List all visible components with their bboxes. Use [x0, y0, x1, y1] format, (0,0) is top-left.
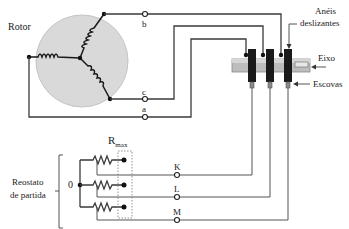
terminal-M-label: M	[173, 207, 181, 217]
rotor	[27, 12, 128, 107]
rmax-label: Rmax	[108, 134, 128, 149]
terminal-c-label: c	[142, 87, 146, 97]
rheostat-label-1: Reostato	[12, 177, 44, 187]
lead-L	[179, 88, 270, 197]
terminal-M	[175, 218, 180, 223]
terminal-b-label: b	[142, 19, 147, 29]
terminal-b	[143, 12, 148, 17]
slip-ring-3	[284, 49, 292, 82]
slip-rings	[244, 49, 292, 82]
slip-rings-label-1: Anéis	[315, 6, 336, 16]
slip-ring-1	[248, 49, 256, 82]
slip-rings-label-2: deslizantes	[300, 18, 340, 28]
wire-b	[104, 14, 281, 54]
brushes	[250, 82, 290, 88]
brushes-label: Escovas	[313, 79, 343, 89]
terminal-K-label: K	[174, 162, 181, 172]
brush-2	[268, 82, 272, 88]
rheostat-bracket	[55, 155, 63, 228]
lead-K	[179, 88, 252, 175]
shaft-label: Eixo	[318, 53, 335, 63]
terminal-c	[143, 97, 148, 102]
resistor-1	[80, 156, 124, 164]
neutral-label: 0	[68, 179, 73, 190]
keyway	[295, 62, 308, 67]
resistor-2	[80, 181, 124, 189]
brush-1	[250, 82, 254, 88]
terminal-K	[175, 173, 180, 178]
lead-M	[179, 88, 288, 220]
brush-3	[286, 82, 290, 88]
slip-rings-pointer	[289, 24, 297, 46]
slip-ring-2	[266, 49, 274, 82]
starting-rheostat: Reostato de partida 0 Rmax	[10, 134, 175, 228]
terminal-a-label: a	[142, 104, 146, 114]
rotor-circuit-diagram: Rotor b c a Anéis deslizantes Eixo Escov…	[0, 0, 349, 229]
terminal-a	[143, 115, 148, 120]
rheostat-label-2: de partida	[10, 190, 46, 200]
terminal-L-label: L	[174, 184, 180, 194]
resistor-3	[80, 203, 124, 211]
star-point-node	[78, 56, 82, 60]
terminal-L	[175, 195, 180, 200]
rotor-label: Rotor	[8, 21, 31, 32]
